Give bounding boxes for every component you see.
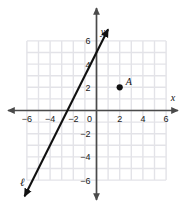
origin-tick-label: 0 — [87, 114, 92, 124]
y-tick-label: −6 — [80, 176, 90, 186]
x-tick-label: −2 — [68, 114, 78, 124]
x-tick-label: 6 — [164, 114, 169, 124]
y-tick-label: −4 — [80, 152, 90, 162]
y-tick-label: 6 — [85, 36, 90, 46]
coordinate-graph-svg: xy−6−4−22460−6−4−2246ℓA — [0, 0, 186, 208]
graph-line — [25, 29, 109, 196]
y-tick-label: 2 — [85, 83, 90, 93]
x-tick-label: 2 — [117, 114, 122, 124]
data-point-marker — [117, 84, 123, 90]
x-tick-label: −6 — [22, 114, 32, 124]
data-point-label: A — [125, 76, 133, 87]
x-tick-label: 4 — [140, 114, 145, 124]
line-label: ℓ — [20, 176, 25, 188]
x-tick-label: −4 — [45, 114, 55, 124]
x-axis-label: x — [170, 92, 176, 103]
coordinate-plane-figure: xy−6−4−22460−6−4−2246ℓA — [0, 0, 186, 208]
y-tick-label: −2 — [80, 129, 90, 139]
